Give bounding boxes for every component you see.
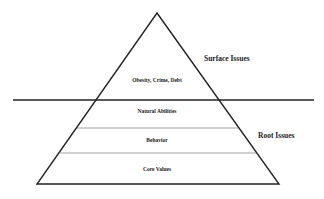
layer-label: Obesity, Crime, Debt — [132, 77, 182, 83]
layer-label: Behavior — [146, 137, 167, 143]
layer-label: Natural Abilities — [138, 108, 177, 114]
root-issues-label: Root Issues — [258, 131, 294, 140]
surface-issues-label: Surface Issues — [204, 54, 250, 63]
pyramid-outline — [37, 13, 279, 184]
layer-label: Core Values — [143, 166, 171, 172]
